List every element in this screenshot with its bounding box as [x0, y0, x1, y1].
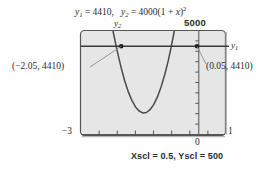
title-y2-exponent: 2	[183, 5, 186, 12]
origin-label: 0	[195, 138, 200, 148]
graphing-calculator-figure: y1 = 4410,y2 = 4000(1 + x)2 y2 5000 y1 (…	[0, 0, 274, 170]
left-intersection-label: (−2.05, 4410)	[12, 62, 64, 72]
curve-label-y2-subscript: 2	[118, 22, 121, 29]
y-max-label: 5000	[184, 18, 206, 28]
title-y2-equation: = 4000(1 +	[129, 7, 176, 17]
line-label-y1-subscript: 1	[235, 44, 238, 51]
title-equation: y1 = 4410,y2 = 4000(1 + x)2	[75, 6, 186, 19]
x-max-label: 1	[228, 127, 233, 137]
x-min-label: −3	[62, 127, 72, 137]
title-y1-equation: = 4410,	[83, 7, 114, 17]
curve-label-y2: y2	[114, 19, 121, 29]
right-intersection-label: (0.05, 4410)	[206, 62, 253, 72]
plot-svg	[0, 0, 274, 170]
scale-caption: Xscl = 0.5, Yscl = 500	[131, 152, 223, 161]
line-label-y1: y1	[231, 41, 238, 51]
